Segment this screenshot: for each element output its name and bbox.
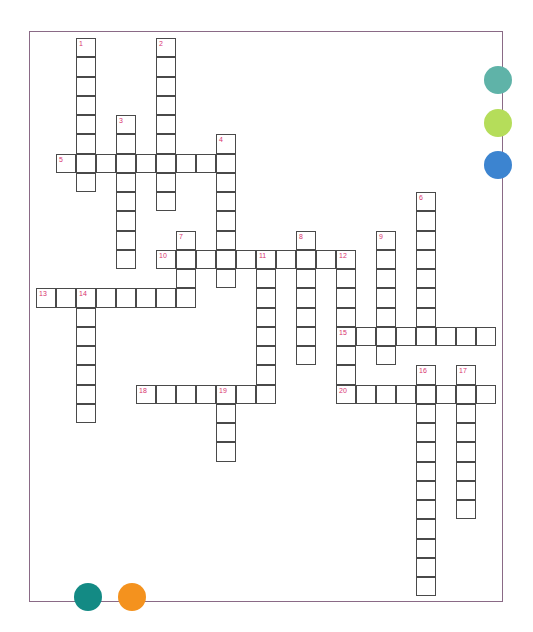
crossword-cell[interactable] — [356, 385, 376, 404]
crossword-cell[interactable]: 13 — [36, 288, 56, 307]
crossword-cell[interactable] — [256, 385, 276, 404]
crossword-cell[interactable] — [76, 134, 96, 153]
crossword-cell[interactable] — [76, 173, 96, 192]
crossword-cell[interactable] — [216, 404, 236, 423]
crossword-cell[interactable] — [416, 423, 436, 442]
crossword-cell[interactable] — [256, 308, 276, 327]
crossword-cell[interactable] — [256, 365, 276, 384]
crossword-cell[interactable] — [176, 385, 196, 404]
crossword-cell[interactable] — [336, 288, 356, 307]
crossword-cell[interactable] — [456, 462, 476, 481]
crossword-cell[interactable]: 12 — [336, 250, 356, 269]
crossword-cell[interactable]: 8 — [296, 231, 316, 250]
crossword-cell[interactable] — [416, 385, 436, 404]
crossword-cell[interactable] — [156, 77, 176, 96]
crossword-cell[interactable] — [456, 481, 476, 500]
crossword-cell[interactable]: 10 — [156, 250, 176, 269]
crossword-cell[interactable] — [336, 308, 356, 327]
crossword-cell[interactable] — [76, 77, 96, 96]
crossword-cell[interactable] — [196, 154, 216, 173]
crossword-cell[interactable] — [116, 211, 136, 230]
crossword-cell[interactable] — [216, 231, 236, 250]
crossword-cell[interactable] — [156, 192, 176, 211]
crossword-cell[interactable] — [356, 327, 376, 346]
crossword-cell[interactable] — [76, 57, 96, 76]
crossword-cell[interactable] — [296, 288, 316, 307]
crossword-cell[interactable] — [436, 327, 456, 346]
crossword-cell[interactable] — [416, 308, 436, 327]
crossword-cell[interactable] — [416, 211, 436, 230]
crossword-cell[interactable] — [376, 250, 396, 269]
crossword-cell[interactable]: 5 — [56, 154, 76, 173]
crossword-cell[interactable] — [56, 288, 76, 307]
crossword-cell[interactable] — [76, 96, 96, 115]
crossword-cell[interactable] — [216, 250, 236, 269]
crossword-cell[interactable] — [256, 269, 276, 288]
crossword-cell[interactable] — [116, 231, 136, 250]
crossword-cell[interactable] — [476, 327, 496, 346]
crossword-cell[interactable] — [196, 385, 216, 404]
crossword-cell[interactable] — [376, 327, 396, 346]
crossword-cell[interactable] — [336, 365, 356, 384]
crossword-cell[interactable] — [416, 404, 436, 423]
crossword-cell[interactable]: 17 — [456, 365, 476, 384]
crossword-cell[interactable] — [116, 154, 136, 173]
crossword-cell[interactable] — [76, 327, 96, 346]
crossword-cell[interactable] — [336, 346, 356, 365]
crossword-cell[interactable] — [76, 404, 96, 423]
crossword-cell[interactable] — [196, 250, 216, 269]
crossword-cell[interactable] — [96, 154, 116, 173]
crossword-cell[interactable]: 15 — [336, 327, 356, 346]
crossword-cell[interactable] — [416, 577, 436, 596]
crossword-cell[interactable]: 18 — [136, 385, 156, 404]
crossword-cell[interactable] — [96, 288, 116, 307]
crossword-cell[interactable] — [416, 481, 436, 500]
crossword-cell[interactable]: 4 — [216, 134, 236, 153]
crossword-cell[interactable] — [156, 134, 176, 153]
crossword-cell[interactable] — [456, 423, 476, 442]
crossword-cell[interactable] — [416, 519, 436, 538]
crossword-cell[interactable] — [156, 57, 176, 76]
crossword-cell[interactable] — [376, 288, 396, 307]
crossword-cell[interactable] — [116, 288, 136, 307]
crossword-cell[interactable] — [76, 385, 96, 404]
crossword-cell[interactable] — [116, 134, 136, 153]
crossword-cell[interactable] — [256, 327, 276, 346]
crossword-cell[interactable] — [216, 211, 236, 230]
crossword-cell[interactable]: 9 — [376, 231, 396, 250]
crossword-cell[interactable]: 6 — [416, 192, 436, 211]
crossword-cell[interactable]: 20 — [336, 385, 356, 404]
crossword-cell[interactable] — [456, 442, 476, 461]
crossword-cell[interactable]: 14 — [76, 288, 96, 307]
crossword-cell[interactable]: 16 — [416, 365, 436, 384]
crossword-cell[interactable] — [296, 269, 316, 288]
crossword-cell[interactable] — [476, 385, 496, 404]
crossword-cell[interactable]: 19 — [216, 385, 236, 404]
crossword-cell[interactable] — [456, 404, 476, 423]
crossword-cell[interactable]: 3 — [116, 115, 136, 134]
crossword-cell[interactable] — [296, 308, 316, 327]
crossword-cell[interactable]: 1 — [76, 38, 96, 57]
crossword-cell[interactable] — [216, 423, 236, 442]
crossword-cell[interactable]: 7 — [176, 231, 196, 250]
crossword-cell[interactable] — [216, 154, 236, 173]
crossword-cell[interactable] — [376, 269, 396, 288]
crossword-cell[interactable] — [416, 231, 436, 250]
crossword-cell[interactable] — [396, 385, 416, 404]
crossword-cell[interactable] — [156, 173, 176, 192]
crossword-cell[interactable] — [116, 250, 136, 269]
crossword-cell[interactable] — [376, 308, 396, 327]
crossword-cell[interactable] — [136, 154, 156, 173]
crossword-cell[interactable] — [296, 327, 316, 346]
crossword-cell[interactable] — [456, 500, 476, 519]
crossword-cell[interactable] — [116, 173, 136, 192]
crossword-cell[interactable] — [216, 442, 236, 461]
crossword-cell[interactable]: 11 — [256, 250, 276, 269]
crossword-cell[interactable] — [416, 327, 436, 346]
crossword-cell[interactable] — [176, 269, 196, 288]
crossword-cell[interactable] — [216, 269, 236, 288]
crossword-cell[interactable] — [436, 385, 456, 404]
crossword-cell[interactable] — [296, 346, 316, 365]
crossword-cell[interactable] — [296, 250, 316, 269]
crossword-cell[interactable] — [456, 327, 476, 346]
